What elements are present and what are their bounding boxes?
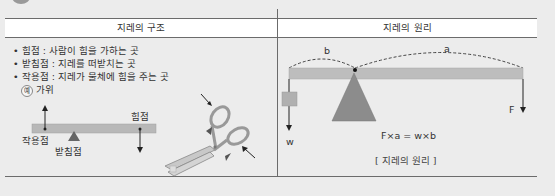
weight-label: w: [286, 136, 294, 147]
lever-table: 지레의 구조 지레의 원리 • 힘점 : 사람이 힘을 가하는 곳 • 받침점 …: [5, 9, 537, 177]
label-load: 작용점: [22, 133, 49, 147]
scissors-icon: [160, 94, 260, 179]
section-marker-icon: [12, 0, 30, 4]
force-label: F: [509, 104, 514, 115]
formula: F×a = w×b: [381, 130, 436, 141]
arc-label-a: a: [444, 43, 450, 54]
label-effort: 힘점: [131, 109, 149, 123]
lever-principle-diagram: [278, 9, 537, 177]
arc-label-b: b: [324, 45, 330, 56]
label-fulcrum: 받침점: [55, 144, 82, 158]
principle-caption: [ 지레의 원리 ]: [375, 153, 436, 167]
